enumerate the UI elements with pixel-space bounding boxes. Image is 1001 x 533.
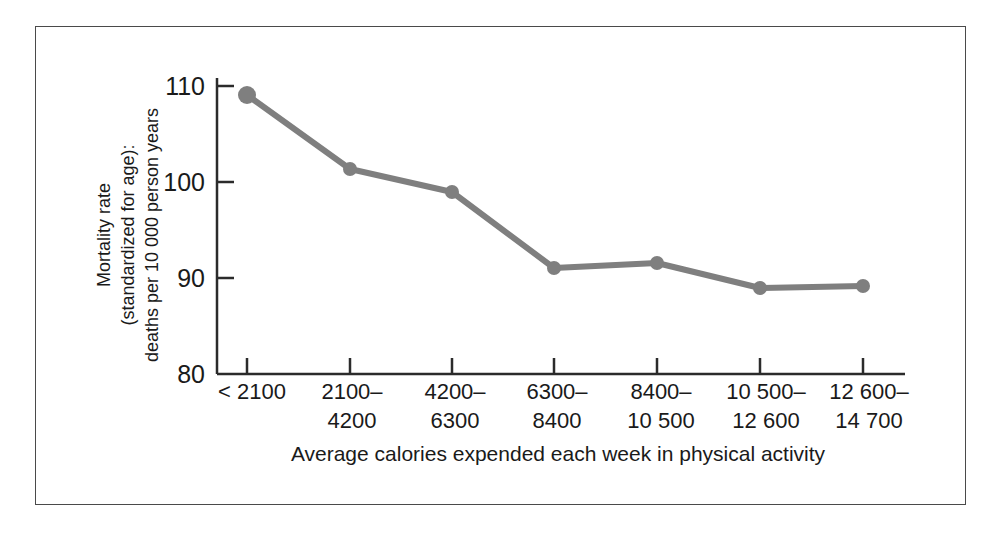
y-tick-label-90: 90 bbox=[177, 264, 205, 292]
data-point-1[interactable] bbox=[343, 162, 357, 176]
y-axis-title-line-1: Mortality rate bbox=[94, 183, 114, 287]
y-axis-title: Mortality rate (standardized for age): d… bbox=[94, 108, 162, 362]
x-cat-3-line-1: 6300– bbox=[526, 379, 588, 404]
x-cat-4-line-1: 8400– bbox=[630, 379, 692, 404]
x-cat-0-line-1: < 2100 bbox=[218, 379, 286, 404]
data-point-2[interactable] bbox=[445, 185, 459, 199]
x-axis-category-labels: < 2100 2100– 4200 4200– 6300 6300– 8400 … bbox=[218, 379, 909, 433]
data-point-6[interactable] bbox=[856, 279, 870, 293]
x-cat-6-line-2: 14 700 bbox=[835, 408, 902, 433]
series-line-mortality bbox=[247, 95, 863, 288]
plot-area: 110 100 90 80 < 2100 2100– 4200 4200– bbox=[0, 0, 1001, 533]
data-point-3[interactable] bbox=[547, 261, 561, 275]
x-cat-4-line-2: 10 500 bbox=[627, 408, 694, 433]
x-axis-ticks bbox=[247, 358, 863, 374]
data-point-5[interactable] bbox=[753, 281, 767, 295]
x-cat-3-line-2: 8400 bbox=[533, 408, 582, 433]
x-cat-1-line-1: 2100– bbox=[321, 379, 383, 404]
x-cat-5-line-1: 10 500– bbox=[726, 379, 806, 404]
data-point-0[interactable] bbox=[238, 86, 256, 104]
x-cat-2-line-1: 4200– bbox=[424, 379, 486, 404]
line-chart: 110 100 90 80 < 2100 2100– 4200 4200– bbox=[0, 0, 1001, 533]
y-axis-title-line-3: deaths per 10 000 person years bbox=[142, 108, 162, 362]
y-axis-ticks bbox=[217, 86, 234, 278]
series-markers bbox=[238, 86, 870, 295]
y-tick-label-110: 110 bbox=[165, 72, 205, 100]
x-cat-1-line-2: 4200 bbox=[328, 408, 377, 433]
x-axis-title: Average calories expended each week in p… bbox=[291, 442, 826, 465]
y-tick-label-100: 100 bbox=[163, 168, 205, 196]
x-cat-6-line-1: 12 600– bbox=[829, 379, 909, 404]
data-point-4[interactable] bbox=[650, 256, 664, 270]
y-axis-title-line-2: (standardized for age): bbox=[118, 144, 138, 325]
figure-container: 110 100 90 80 < 2100 2100– 4200 4200– bbox=[0, 0, 1001, 533]
y-tick-label-80: 80 bbox=[177, 360, 205, 388]
x-cat-5-line-2: 12 600 bbox=[732, 408, 799, 433]
x-cat-2-line-2: 6300 bbox=[431, 408, 480, 433]
